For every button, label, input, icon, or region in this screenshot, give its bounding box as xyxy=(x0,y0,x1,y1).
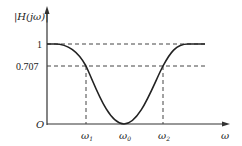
x-tick-omega0: ω0 xyxy=(119,130,131,142)
origin-label: O xyxy=(36,119,44,130)
magnitude-curve xyxy=(47,44,205,124)
y-tick-0707: 0.707 xyxy=(16,61,39,72)
filter-response-diagram: |H(jω)| 1 0.707 O ω1 ω0 ω2 ω xyxy=(0,0,242,146)
x-axis-arrow-icon xyxy=(222,122,230,127)
x-axis-label: ω xyxy=(221,130,229,141)
x-tick-omega1: ω1 xyxy=(81,130,93,142)
y-axis-label: |H(jω)| xyxy=(14,11,49,23)
x-tick-omega2: ω2 xyxy=(158,130,170,142)
y-tick-1: 1 xyxy=(37,39,42,50)
